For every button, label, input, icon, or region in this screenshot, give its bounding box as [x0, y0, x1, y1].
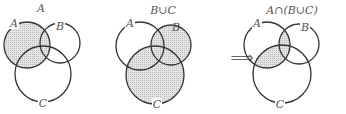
implies-arrow-icon: ⟹	[231, 48, 254, 67]
venn-a-intersect-b-union-c: A∩(B∪C) A B C	[244, 4, 319, 111]
label-b: B	[171, 21, 180, 34]
diagram-title: B∪C	[149, 4, 176, 17]
venn-b-union-c: B∪C A B C	[116, 4, 191, 111]
diagram-title: A∩(B∪C)	[265, 4, 317, 17]
label-b: B	[55, 20, 64, 33]
venn-a: A A B C	[4, 2, 80, 110]
venn-diagrams: A A B C B∪C A B C ⟹ A∩(B∪C)	[0, 0, 346, 114]
diagram-title: A	[36, 2, 45, 15]
label-c: C	[276, 98, 285, 111]
label-b: B	[300, 21, 309, 34]
label-c: C	[153, 98, 162, 111]
label-a: A	[125, 17, 134, 30]
label-a: A	[9, 17, 18, 30]
label-a: A	[252, 17, 261, 30]
label-c: C	[39, 97, 48, 110]
